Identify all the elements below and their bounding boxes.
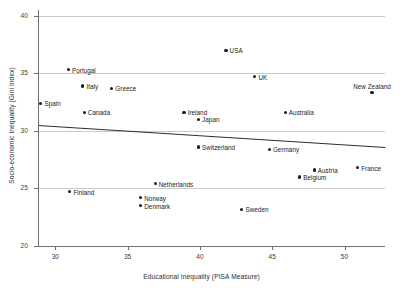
x-tick-label-40: 40 — [185, 253, 215, 260]
data-point[interactable] — [139, 204, 142, 207]
data-point-label: New Zealand — [353, 83, 391, 90]
data-point-label: USA — [230, 47, 243, 54]
data-point[interactable] — [370, 91, 373, 94]
data-point-label: Belgium — [303, 173, 326, 180]
data-point-label: Austria — [318, 167, 338, 174]
data-point-label: Canada — [88, 109, 110, 116]
data-point-label: France — [361, 164, 381, 171]
y-axis-title: Socio-economic Inequality (Gini Index) — [8, 21, 15, 231]
data-point[interactable] — [356, 166, 359, 169]
data-point-label: Denmark — [144, 202, 170, 209]
x-tick-label-35: 35 — [113, 253, 143, 260]
x-axis-title: Educational Inequality (PISA Measure) — [0, 273, 403, 280]
y-tick-label-40: 40 — [6, 12, 28, 19]
data-point-label: Australia — [289, 109, 314, 116]
y-tick-mark-40 — [34, 16, 38, 17]
plot-area: SpainPortugalFinlandItalyCanadaGreeceNor… — [38, 10, 385, 246]
data-point[interactable] — [182, 111, 185, 114]
data-point-label: Finland — [73, 188, 94, 195]
x-tick-mark-35 — [128, 246, 129, 250]
data-point[interactable] — [139, 196, 142, 199]
x-tick-mark-30 — [55, 246, 56, 250]
y-tick-mark-30 — [34, 131, 38, 132]
data-point[interactable] — [240, 208, 243, 211]
y-tick-mark-35 — [34, 73, 38, 74]
data-point[interactable] — [253, 75, 256, 78]
x-axis-line — [38, 246, 385, 247]
data-point-label: Norway — [144, 194, 166, 201]
data-point[interactable] — [154, 182, 157, 185]
data-point[interactable] — [313, 168, 316, 171]
y-axis-line — [38, 10, 39, 246]
data-point-label: UK — [258, 73, 267, 80]
gridline-y-40 — [38, 16, 385, 17]
x-tick-mark-50 — [345, 246, 346, 250]
x-tick-label-50: 50 — [330, 253, 360, 260]
y-tick-mark-20 — [34, 246, 38, 247]
y-tick-label-20: 20 — [6, 242, 28, 249]
data-point-label: Greece — [115, 85, 136, 92]
data-point[interactable] — [81, 84, 84, 87]
data-point-label: Sweden — [245, 206, 268, 213]
x-tick-label-45: 45 — [257, 253, 287, 260]
data-point[interactable] — [197, 145, 200, 148]
data-point[interactable] — [68, 190, 71, 193]
data-point-label: Spain — [44, 100, 60, 107]
gridline-y-35 — [38, 73, 385, 74]
gridline-y-30 — [38, 131, 385, 132]
x-tick-label-30: 30 — [40, 253, 70, 260]
x-tick-mark-40 — [200, 246, 201, 250]
data-point-label: Switzerland — [202, 144, 235, 151]
data-point-label: Portugal — [72, 66, 96, 73]
data-point[interactable] — [298, 175, 301, 178]
x-tick-mark-45 — [272, 246, 273, 250]
data-point[interactable] — [224, 49, 227, 52]
data-point[interactable] — [83, 111, 86, 114]
data-point-label: Germany — [273, 146, 299, 153]
data-point-label: Netherlands — [159, 180, 194, 187]
data-point-label: Japan — [202, 116, 219, 123]
data-point[interactable] — [268, 148, 271, 151]
data-point[interactable] — [110, 87, 113, 90]
data-point[interactable] — [284, 111, 287, 114]
data-point[interactable] — [67, 68, 70, 71]
data-point-label: Italy — [86, 82, 98, 89]
data-point[interactable] — [39, 102, 42, 105]
data-point[interactable] — [197, 118, 200, 121]
y-tick-mark-25 — [34, 188, 38, 189]
scatter-chart: SpainPortugalFinlandItalyCanadaGreeceNor… — [0, 0, 403, 293]
